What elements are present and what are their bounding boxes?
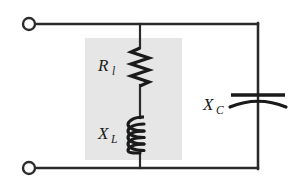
resistor-label-subscript: l <box>112 65 115 77</box>
capacitor-label-main: X <box>202 95 214 114</box>
resistor-label-main: R <box>97 56 109 75</box>
circuit-schematic-canvas: R l X L X C <box>0 0 293 190</box>
bottom-left-terminal[interactable] <box>23 162 35 174</box>
capacitor-label-subscript: C <box>216 104 224 116</box>
top-left-terminal[interactable] <box>23 18 35 30</box>
inductor-label-main: X <box>97 124 109 143</box>
inductor-label-subscript: L <box>110 133 117 145</box>
circuit-diagram-figure: R l X L X C <box>0 0 293 190</box>
